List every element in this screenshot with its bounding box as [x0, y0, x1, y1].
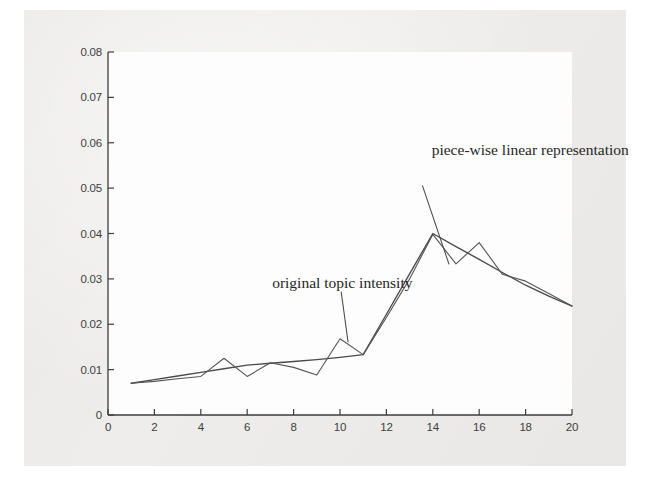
axes-frame [108, 52, 572, 415]
y-axis-ticks [108, 52, 114, 415]
y-axis-tick-label: 0.08 [58, 46, 102, 58]
x-axis-tick-label: 6 [244, 421, 250, 433]
y-axis-tick-label: 0 [58, 409, 102, 421]
x-axis-tick-label: 4 [198, 421, 204, 433]
annotation-leader-lines [341, 185, 449, 342]
y-axis-tick-label: 0.05 [58, 182, 102, 194]
figure-page: 00.010.020.030.040.050.060.070.08 024681… [0, 0, 650, 492]
x-axis-tick-label: 12 [380, 421, 392, 433]
series-layer [131, 234, 572, 384]
annotation-original-topic-intensity: original topic intensity [272, 274, 412, 292]
y-axis-tick-label: 0.06 [58, 137, 102, 149]
annotation-leader-line [422, 185, 449, 264]
y-axis-tick-label: 0.02 [58, 318, 102, 330]
y-axis-tick-label: 0.01 [58, 364, 102, 376]
x-axis-tick-label: 0 [105, 421, 111, 433]
x-axis-tick-label: 20 [566, 421, 578, 433]
annotation-piece-wise-linear-representation: piece-wise linear representation [432, 141, 629, 159]
x-axis-tick-label: 2 [151, 421, 157, 433]
x-axis-tick-label: 16 [473, 421, 485, 433]
x-axis-tick-label: 18 [519, 421, 531, 433]
x-axis-tick-label: 10 [334, 421, 346, 433]
series-original-topic-intensity [131, 234, 572, 383]
x-axis-tick-label: 14 [427, 421, 439, 433]
y-axis-tick-label: 0.04 [58, 228, 102, 240]
y-axis-tick-label: 0.07 [58, 91, 102, 103]
y-axis-tick-label: 0.03 [58, 273, 102, 285]
x-axis-tick-label: 8 [290, 421, 296, 433]
annotation-leader-line [341, 292, 348, 343]
series-piece-wise-linear-representation [131, 234, 572, 384]
x-axis-ticks [108, 409, 572, 415]
